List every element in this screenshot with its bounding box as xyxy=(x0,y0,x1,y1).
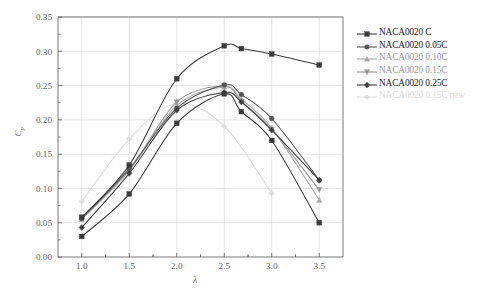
chart-legend: NACA0020 CNACA0020 0.05CNACA0020 0.10CNA… xyxy=(356,26,489,102)
x-tick-label: 1.5 xyxy=(124,261,136,271)
series-line xyxy=(82,44,320,217)
x-tick-label: 2.5 xyxy=(219,261,231,271)
legend-item-label: NACA0020 0.15C new xyxy=(378,90,465,100)
series-marker xyxy=(127,192,132,197)
y-tick-label: 0.35 xyxy=(36,12,52,22)
legend-item[interactable]: NACA0020 C xyxy=(356,26,489,39)
series-marker xyxy=(269,52,274,57)
legend-item-label: NACA0020 0.10C xyxy=(378,52,447,62)
y-tick-label: 0.10 xyxy=(36,184,52,194)
series-marker xyxy=(269,116,274,121)
legend-item[interactable]: NACA0020 0.15C xyxy=(356,64,489,77)
series-0 xyxy=(79,43,321,219)
series-marker xyxy=(239,46,244,51)
series-marker xyxy=(174,76,179,81)
y-tick-label: 0.15 xyxy=(36,149,52,159)
series-line xyxy=(82,86,320,218)
series-marker xyxy=(269,191,275,196)
x-tick-label: 3.0 xyxy=(266,261,278,271)
y-tick-label: 0.25 xyxy=(36,81,52,91)
series-marker xyxy=(79,215,84,220)
series-marker xyxy=(174,121,179,126)
y-tick-label: 0.20 xyxy=(36,115,52,125)
series-4 xyxy=(79,89,322,230)
legend-marker-icon xyxy=(356,51,378,63)
legend-item-label: NACA0020 0.15C xyxy=(378,65,447,75)
legend-item[interactable]: NACA0020 0.10C xyxy=(356,51,489,64)
series-marker xyxy=(239,92,244,97)
series-6 xyxy=(79,91,321,238)
x-tick-label: 2.0 xyxy=(171,261,183,271)
legend-item-label: NACA0020 0.05C xyxy=(378,40,447,50)
series-marker xyxy=(317,63,322,68)
series-marker xyxy=(222,91,227,96)
legend-marker-icon xyxy=(356,39,378,51)
series-line xyxy=(82,94,320,237)
series-marker xyxy=(239,109,244,114)
legend-item[interactable]: NACA0020 0.05C xyxy=(356,39,489,52)
legend-marker-icon xyxy=(356,64,378,76)
x-tick-label: 3.5 xyxy=(314,261,326,271)
legend-marker-icon xyxy=(356,89,378,101)
series-marker xyxy=(317,220,322,225)
chart-figure: 0.000.050.100.150.200.250.300.351.01.52.… xyxy=(0,0,489,297)
series-marker xyxy=(222,43,227,48)
series-marker xyxy=(127,163,132,168)
legend-item[interactable]: NACA0020 0.25C xyxy=(356,76,489,89)
series-marker xyxy=(222,82,227,87)
legend-item-label: NACA0020 0.25C xyxy=(378,78,447,88)
series-marker xyxy=(317,187,322,192)
y-tick-label: 0.30 xyxy=(36,47,52,57)
legend-marker-icon xyxy=(356,26,378,38)
series-2 xyxy=(79,84,322,222)
legend-item-label: NACA0020 C xyxy=(378,27,431,37)
series-marker xyxy=(269,138,274,143)
y-tick-label: 0.05 xyxy=(36,218,52,228)
series-1 xyxy=(79,82,321,221)
legend-item[interactable]: NACA0020 0.15C new xyxy=(356,89,489,102)
y-axis-label: Cp xyxy=(13,127,25,136)
x-axis-label: λ xyxy=(193,275,197,285)
legend-marker-icon xyxy=(356,77,378,89)
x-tick-label: 1.0 xyxy=(76,261,88,271)
series-marker xyxy=(79,234,84,239)
y-tick-label: 0.00 xyxy=(36,252,52,262)
